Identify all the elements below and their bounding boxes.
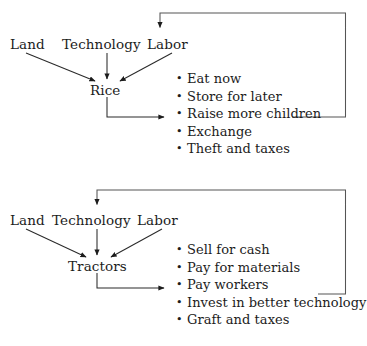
tractors-use-item: Pay for materials <box>176 259 367 277</box>
tractors-use-item: Sell for cash <box>176 241 367 259</box>
arrow-tractors-to-uses <box>97 273 164 288</box>
tractors-use-item: Pay workers <box>176 276 367 294</box>
rice-output-node: Rice <box>90 84 120 98</box>
arrow-labor-to-tractors <box>111 229 162 257</box>
tractors-use-item: Invest in better technology <box>176 294 367 312</box>
rice-use-item: Store for later <box>176 88 321 106</box>
tractors-input-land: Land <box>10 214 45 228</box>
arrow-land-to-rice <box>26 53 95 81</box>
rice-input-technology: Technology <box>62 38 141 52</box>
rice-input-labor: Labor <box>147 38 188 52</box>
rice-use-item: Exchange <box>176 123 321 141</box>
tractors-use-item: Graft and taxes <box>176 311 367 329</box>
rice-use-item: Theft and taxes <box>176 140 321 158</box>
rice-use-item: Raise more children <box>176 105 321 123</box>
tractors-input-labor: Labor <box>137 214 178 228</box>
tractors-input-technology: Technology <box>52 214 131 228</box>
arrow-rice-to-uses <box>107 97 164 117</box>
arrow-labor-to-rice <box>120 53 172 81</box>
arrow-land-to-tractors <box>26 229 86 257</box>
tractors-uses-list: Sell for cash Pay for materials Pay work… <box>176 241 367 329</box>
rice-use-item: Eat now <box>176 70 321 88</box>
rice-input-land: Land <box>10 38 45 52</box>
tractors-output-node: Tractors <box>68 260 127 274</box>
rice-uses-list: Eat now Store for later Raise more child… <box>176 70 321 158</box>
